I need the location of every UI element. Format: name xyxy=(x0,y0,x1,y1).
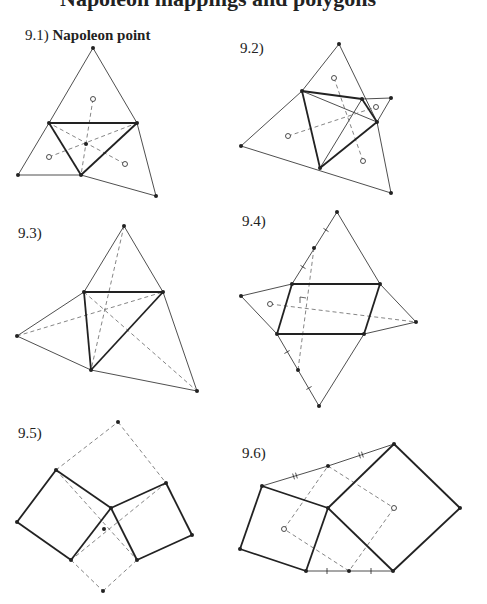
panel-9-6 xyxy=(238,442,462,574)
dashed-line xyxy=(17,292,163,336)
bold-line xyxy=(240,486,262,549)
vertex-dot xyxy=(260,484,264,488)
vertex-dot xyxy=(154,194,158,198)
center-open-dot xyxy=(374,105,379,110)
panel-number: 9.2) xyxy=(240,40,264,56)
vertex-dot xyxy=(378,282,382,286)
panel-9-3 xyxy=(15,224,199,393)
vertex-dot xyxy=(135,121,139,125)
dashed-line xyxy=(49,123,137,157)
dashed-line xyxy=(288,107,376,136)
vertex-dot xyxy=(91,46,95,50)
thin-line xyxy=(81,175,156,196)
thin-line xyxy=(377,122,391,193)
vertex-dot xyxy=(347,569,351,573)
vertex-dot xyxy=(337,42,341,46)
panel-title: Napoleon point xyxy=(53,27,151,43)
vertex-dot xyxy=(458,506,462,510)
vertex-dot xyxy=(318,166,322,170)
center-open-dot xyxy=(268,302,273,307)
panel-number: 9.5) xyxy=(18,425,42,441)
thin-line xyxy=(49,48,93,123)
vertex-dot xyxy=(89,368,93,372)
vertex-dot xyxy=(54,468,58,472)
panel-9-2 xyxy=(239,42,393,195)
center-open-dot xyxy=(282,527,287,532)
panel-number: 9.3) xyxy=(18,225,42,241)
panel-9-1 xyxy=(16,46,158,198)
vertex-dot xyxy=(392,442,396,446)
thin-line xyxy=(18,123,49,175)
bold-line xyxy=(277,284,292,334)
vertex-dot xyxy=(15,520,19,524)
dashed-line xyxy=(328,466,394,508)
dashed-line xyxy=(56,422,118,470)
bold-line xyxy=(302,91,320,168)
bold-line xyxy=(84,292,91,370)
panel-label-9-5: 9.5) xyxy=(18,425,42,442)
center-open-dot xyxy=(91,97,96,102)
dashed-line xyxy=(270,304,416,322)
thin-line xyxy=(241,91,302,146)
panel-label-9-1: 9.1) Napoleon point xyxy=(25,27,150,44)
thin-line xyxy=(319,334,364,406)
vertex-dot xyxy=(391,569,395,573)
panel-number: 9.4) xyxy=(242,213,266,229)
bold-line xyxy=(364,284,380,334)
vertex-dot xyxy=(326,464,330,468)
vertex-dot xyxy=(300,89,304,93)
thin-line xyxy=(137,123,156,196)
dashed-line xyxy=(118,422,166,483)
vertex-dot xyxy=(101,589,105,593)
bold-line xyxy=(91,292,163,370)
dashed-line xyxy=(103,560,137,591)
center-open-dot xyxy=(392,506,397,511)
vertex-dot xyxy=(195,389,199,393)
bold-line xyxy=(17,470,56,522)
vertex-dot xyxy=(82,290,86,294)
vertex-dot xyxy=(389,191,393,195)
thin-line xyxy=(337,212,380,284)
bold-line xyxy=(394,444,460,508)
center-open-dot xyxy=(123,162,128,167)
thin-line xyxy=(339,44,377,122)
thin-line xyxy=(124,226,163,292)
thin-line xyxy=(84,226,124,292)
bold-line xyxy=(49,123,81,175)
bold-line xyxy=(240,549,306,571)
bold-line xyxy=(320,122,377,168)
vertex-dot xyxy=(362,332,366,336)
geometry-figures xyxy=(0,0,487,604)
vertex-dot xyxy=(312,246,316,250)
vertex-dot xyxy=(335,210,339,214)
thin-line xyxy=(17,336,91,370)
vertex-dot xyxy=(239,144,243,148)
bold-line xyxy=(111,483,166,508)
dashed-line xyxy=(56,470,137,560)
dashed-line xyxy=(81,99,93,175)
dashed-line xyxy=(91,226,124,370)
thin-line xyxy=(17,292,84,336)
vertex-dot xyxy=(79,173,83,177)
vertex-dot xyxy=(15,334,19,338)
vertex-dot xyxy=(317,404,321,408)
thin-line xyxy=(302,44,339,91)
center-open-dot xyxy=(47,155,52,160)
bold-line xyxy=(17,522,71,560)
panel-label-9-6: 9.6) xyxy=(242,445,266,462)
panel-number: 9.1) xyxy=(25,27,49,43)
bold-line xyxy=(81,123,137,175)
thin-line xyxy=(364,322,416,334)
right-angle-mark xyxy=(300,297,306,303)
bold-line xyxy=(306,508,328,571)
thin-line xyxy=(93,48,137,123)
bold-line xyxy=(56,470,111,508)
vertex-dot xyxy=(84,142,88,146)
dashed-line xyxy=(298,248,314,370)
panel-number: 9.6) xyxy=(242,445,266,461)
thin-line xyxy=(241,284,292,296)
bold-line xyxy=(393,508,460,571)
bold-line xyxy=(111,508,137,560)
vertex-dot xyxy=(239,294,243,298)
vertex-dot xyxy=(414,320,418,324)
